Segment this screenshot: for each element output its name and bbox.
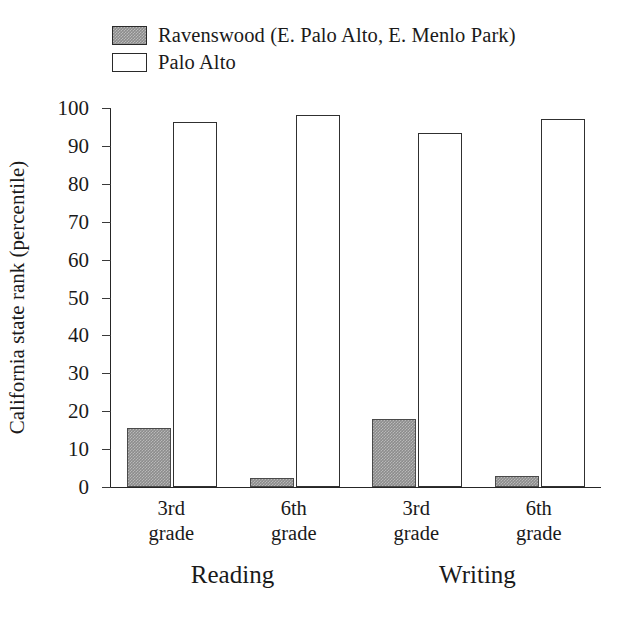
bar-ravenswood-3 (372, 419, 416, 487)
y-tick-label-70: 70 (45, 210, 89, 235)
y-tick-10: 10 (102, 449, 111, 450)
legend-label-palo-alto: Palo Alto (158, 52, 236, 73)
bar-ravenswood-2 (250, 478, 294, 487)
y-tick-label-60: 60 (45, 248, 89, 273)
category-label-3: 3rd grade (356, 496, 476, 546)
bar-ravenswood-4 (495, 476, 539, 487)
plot-area: 0102030405060708090100 (110, 108, 601, 488)
y-tick-90: 90 (102, 146, 111, 147)
legend-label-ravenswood: Ravenswood (E. Palo Alto, E. Menlo Park) (158, 25, 516, 46)
y-tick-label-0: 0 (45, 475, 89, 500)
y-tick-label-100: 100 (45, 96, 89, 121)
bar-paloalto-4 (541, 119, 585, 487)
y-tick-label-20: 20 (45, 399, 89, 424)
y-axis-title: California state rank (percentile) (0, 108, 34, 487)
group-label-reading: Reading (143, 560, 323, 590)
y-tick-label-50: 50 (45, 286, 89, 311)
bar-ravenswood-1 (127, 428, 171, 487)
y-tick-label-10: 10 (45, 437, 89, 462)
chart-legend: Ravenswood (E. Palo Alto, E. Menlo Park)… (112, 22, 612, 76)
y-tick-20: 20 (102, 411, 111, 412)
y-tick-40: 40 (102, 335, 111, 336)
bar-series-container (111, 108, 601, 487)
bar-paloalto-1 (173, 122, 217, 487)
legend-swatch-ravenswood (112, 26, 147, 45)
y-tick-70: 70 (102, 222, 111, 223)
y-tick-80: 80 (102, 184, 111, 185)
bar-chart-figure: Ravenswood (E. Palo Alto, E. Menlo Park)… (0, 0, 622, 622)
legend-item-palo-alto: Palo Alto (112, 49, 612, 76)
y-tick-label-40: 40 (45, 323, 89, 348)
category-label-4: 6th grade (479, 496, 599, 546)
y-tick-0: 0 (102, 487, 111, 488)
bar-paloalto-3 (418, 133, 462, 487)
y-tick-30: 30 (102, 373, 111, 374)
y-tick-60: 60 (102, 260, 111, 261)
y-tick-50: 50 (102, 298, 111, 299)
legend-item-ravenswood: Ravenswood (E. Palo Alto, E. Menlo Park) (112, 22, 612, 49)
y-tick-label-90: 90 (45, 134, 89, 159)
legend-swatch-palo-alto (112, 53, 147, 72)
bar-paloalto-2 (296, 115, 340, 487)
y-tick-100: 100 (102, 108, 111, 109)
y-tick-label-30: 30 (45, 361, 89, 386)
y-tick-label-80: 80 (45, 172, 89, 197)
category-label-2: 6th grade (234, 496, 354, 546)
category-label-1: 3rd grade (111, 496, 231, 546)
group-label-writing: Writing (388, 560, 568, 590)
